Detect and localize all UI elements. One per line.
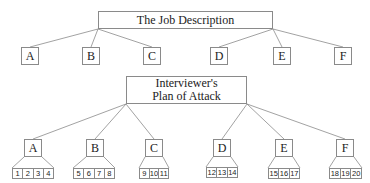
plan-node-d: D (213, 139, 231, 157)
node-label: E (280, 141, 287, 156)
node-label: D (215, 49, 224, 64)
node-label: A (29, 141, 38, 156)
job-description-diagram: The Job Description A B C D E F Intervie… (0, 0, 370, 183)
node-label: A (26, 49, 35, 64)
question-row-e: 15 16 17 (268, 168, 300, 179)
plan-of-attack-box: Interviewer's Plan of Attack (126, 76, 247, 104)
connector-line (139, 157, 145, 168)
top-node-f: F (334, 47, 352, 65)
connector-line (163, 157, 169, 168)
question-row-a: 1 2 3 4 (12, 168, 54, 179)
connector-line (95, 104, 126, 139)
connector-line (268, 157, 275, 168)
connector-line (222, 104, 247, 139)
connector-line (91, 29, 98, 47)
node-label: C (148, 49, 156, 64)
question-cell: 17 (289, 168, 300, 179)
node-label: D (218, 141, 227, 156)
question-row-d: 12 13 14 (206, 167, 238, 178)
top-node-e: E (273, 47, 291, 65)
connector-line (30, 29, 98, 47)
top-node-d: D (210, 47, 228, 65)
question-cell: 4 (43, 168, 54, 179)
connector-line (273, 29, 343, 47)
plan-title-line-2: Plan of Attack (152, 90, 221, 103)
top-node-c: C (143, 47, 161, 65)
connector-line (219, 29, 273, 47)
connector-line (247, 104, 345, 139)
node-label: F (340, 49, 347, 64)
connector-line (104, 157, 115, 168)
connector-line (33, 104, 126, 139)
connector-line (293, 157, 300, 168)
top-node-a: A (21, 47, 39, 65)
connector-line (354, 157, 362, 168)
connector-line (126, 104, 154, 139)
node-label: B (87, 49, 95, 64)
job-description-box: The Job Description (98, 11, 273, 29)
connector-line (12, 157, 24, 168)
connector-line (247, 104, 284, 139)
plan-node-c: C (145, 139, 163, 157)
connector-line (206, 157, 213, 167)
plan-node-b: B (86, 139, 104, 157)
connector-line (73, 157, 86, 168)
plan-node-f: F (336, 139, 354, 157)
question-cell: 8 (104, 168, 115, 179)
plan-node-a: A (24, 139, 42, 157)
question-cell: 11 (158, 168, 169, 179)
connector-line (42, 157, 54, 168)
question-row-b: 5 6 7 8 (73, 168, 115, 179)
top-node-b: B (82, 47, 100, 65)
question-cell: 14 (227, 167, 238, 178)
question-cell: 20 (350, 168, 362, 179)
question-row-f: 18 19 20 (329, 168, 362, 179)
question-row-c: 9 10 11 (139, 168, 169, 179)
connector-line (329, 157, 336, 168)
connector-line (231, 157, 238, 167)
connector-line (98, 29, 152, 47)
plan-node-e: E (275, 139, 293, 157)
node-label: E (278, 49, 285, 64)
connector-line (273, 29, 282, 47)
node-label: B (91, 141, 99, 156)
job-description-title: The Job Description (137, 14, 234, 27)
node-label: F (342, 141, 349, 156)
node-label: C (150, 141, 158, 156)
